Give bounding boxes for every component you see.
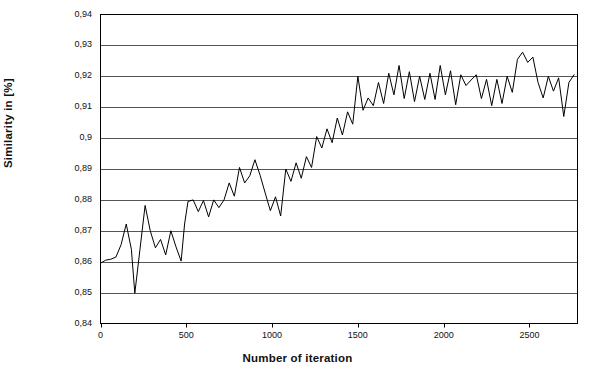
- x-axis-tick-marks: [102, 324, 530, 328]
- y-axis-tick-label: 0,86: [48, 256, 92, 266]
- y-axis-tick-label: 0,9: [48, 132, 92, 142]
- x-axis-tick-label: 2500: [499, 330, 559, 340]
- y-axis-tick-label: 0,84: [48, 318, 92, 328]
- chart-container: 0,940,930,920,910,90,890,880,870,860,850…: [0, 0, 595, 378]
- y-axis-tick-label: 0,88: [48, 194, 92, 204]
- x-axis-title: Number of iteration: [0, 352, 595, 364]
- y-axis-tick-label: 0,89: [48, 163, 92, 173]
- y-axis-tick-label: 0,93: [48, 39, 92, 49]
- x-axis-tick-label: 2000: [414, 330, 474, 340]
- x-axis-tick-label: 1000: [242, 330, 302, 340]
- y-axis-tick-label: 0,91: [48, 101, 92, 111]
- y-axis-tick-label: 0,87: [48, 225, 92, 235]
- data-series-line: [101, 52, 575, 293]
- y-axis-tick-label: 0,94: [48, 9, 92, 19]
- x-axis-tick-label: 1500: [328, 330, 388, 340]
- y-axis-title: Similarity in [%]: [2, 78, 14, 168]
- y-axis-tick-label: 0,85: [48, 287, 92, 297]
- x-axis-tick-label: 0: [71, 330, 131, 340]
- y-axis-tick-label: 0,92: [48, 70, 92, 80]
- x-axis-tick-label: 500: [156, 330, 216, 340]
